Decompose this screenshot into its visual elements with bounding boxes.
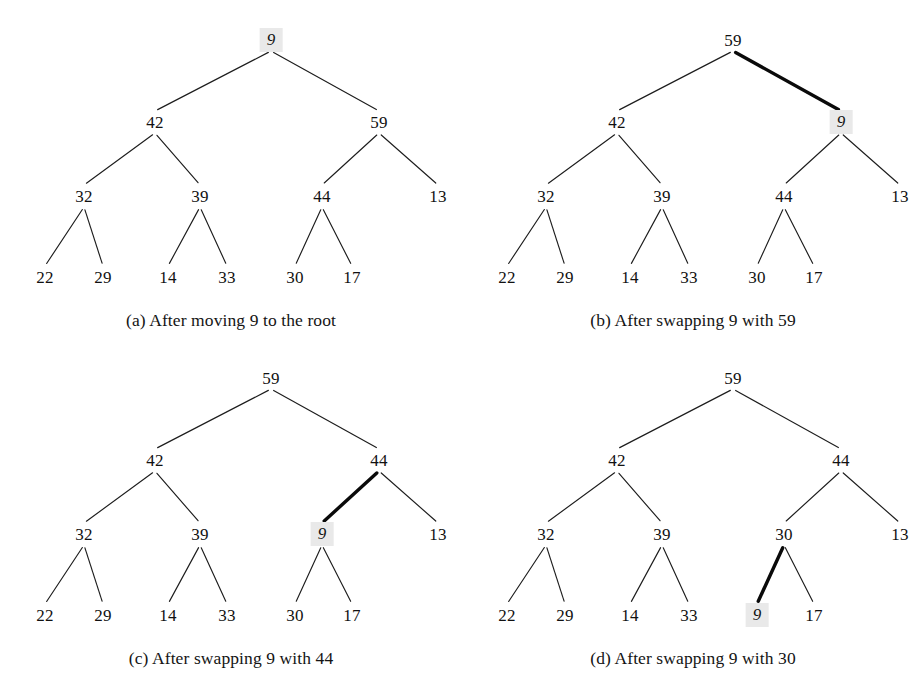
binary-heap-figure: 9425932394413222914333017(a) After movin… (0, 0, 924, 676)
tree-edge (296, 210, 321, 264)
tree-node: 13 (891, 188, 908, 205)
tree-edge (324, 135, 377, 183)
tree-edge (86, 135, 152, 183)
tree-edge (47, 548, 83, 602)
tree-node: 22 (498, 269, 515, 286)
tree-edge (169, 548, 198, 602)
tree-node: 22 (36, 269, 53, 286)
tree-edge (274, 390, 377, 447)
tree-node-highlighted: 9 (830, 110, 853, 134)
tree-edge (843, 473, 898, 521)
tree-edge (758, 210, 783, 264)
tree-node: 17 (343, 607, 360, 624)
tree-edge (323, 548, 350, 602)
tree-edge (157, 473, 198, 520)
tree-panel-b: 5942932394413222914333017(b) After swapp… (462, 0, 924, 338)
panel-caption-c: (c) After swapping 9 with 44 (0, 648, 462, 669)
tree-edge (381, 473, 436, 521)
tree-edge (548, 135, 614, 183)
tree-node: 42 (608, 114, 625, 131)
tree-node: 33 (680, 269, 697, 286)
tree-node: 14 (159, 607, 176, 624)
tree-edge (509, 210, 545, 264)
tree-edge-highlighted (758, 548, 783, 602)
tree-edge (296, 548, 321, 602)
tree-node: 44 (775, 188, 792, 205)
tree-node: 59 (370, 114, 387, 131)
tree-edge (169, 210, 198, 264)
tree-edge (85, 210, 102, 263)
tree-edge (631, 548, 660, 602)
tree-edge (158, 390, 269, 447)
tree-edge (547, 210, 564, 263)
tree-node: 32 (537, 526, 554, 543)
tree-node: 33 (680, 607, 697, 624)
panel-caption-b: (b) After swapping 9 with 59 (462, 310, 924, 331)
tree-node: 22 (36, 607, 53, 624)
tree-edge (323, 210, 350, 264)
panel-caption-a: (a) After moving 9 to the root (0, 310, 462, 331)
tree-node: 29 (556, 269, 573, 286)
tree-edge (786, 135, 839, 183)
tree-node: 42 (608, 452, 625, 469)
tree-edge (786, 473, 839, 521)
tree-node: 30 (286, 607, 303, 624)
tree-edge (663, 548, 688, 602)
tree-node: 14 (621, 269, 638, 286)
tree-node: 13 (891, 526, 908, 543)
tree-node: 14 (159, 269, 176, 286)
tree-node: 44 (832, 452, 849, 469)
tree-node: 17 (343, 269, 360, 286)
tree-edge (736, 390, 839, 447)
tree-panel-a: 9425932394413222914333017(a) After movin… (0, 0, 462, 338)
tree-edge (663, 210, 688, 264)
tree-edge (843, 135, 898, 183)
tree-edge (85, 548, 102, 601)
tree-edge (548, 473, 614, 521)
tree-edge (619, 473, 660, 520)
tree-edge (158, 52, 269, 109)
tree-edge (785, 210, 812, 264)
tree-edge (86, 473, 152, 521)
tree-node: 14 (621, 607, 638, 624)
tree-node: 39 (653, 188, 670, 205)
tree-node-highlighted: 9 (746, 603, 769, 627)
tree-node: 22 (498, 607, 515, 624)
tree-node: 30 (775, 526, 792, 543)
tree-node: 29 (556, 607, 573, 624)
tree-edge-highlighted (324, 473, 377, 521)
tree-panel-c: 5942443239913222914333017(c) After swapp… (0, 338, 462, 676)
panel-caption-d: (d) After swapping 9 with 30 (462, 648, 924, 669)
tree-node: 42 (146, 452, 163, 469)
tree-edge (274, 52, 377, 109)
tree-edge (47, 210, 83, 264)
tree-node: 39 (653, 526, 670, 543)
tree-edge (620, 52, 731, 109)
tree-node: 13 (429, 526, 446, 543)
tree-node-highlighted: 9 (260, 28, 283, 52)
tree-node: 32 (75, 188, 92, 205)
tree-node: 33 (218, 269, 235, 286)
tree-edge-highlighted (736, 52, 839, 109)
tree-node: 39 (191, 526, 208, 543)
tree-edge (381, 135, 436, 183)
tree-node: 32 (537, 188, 554, 205)
tree-node: 30 (286, 269, 303, 286)
tree-panel-d: 5942443239301322291433917(d) After swapp… (462, 338, 924, 676)
tree-edge (620, 390, 731, 447)
tree-node: 17 (805, 269, 822, 286)
tree-edges-a (0, 0, 462, 338)
tree-edge (201, 210, 226, 264)
tree-edges-b (462, 0, 924, 338)
tree-node: 30 (748, 269, 765, 286)
tree-node: 59 (262, 370, 279, 387)
tree-node: 13 (429, 188, 446, 205)
tree-edge (785, 548, 812, 602)
tree-node: 59 (724, 370, 741, 387)
tree-edge (631, 210, 660, 264)
tree-node: 33 (218, 607, 235, 624)
tree-node: 32 (75, 526, 92, 543)
tree-edge (509, 548, 545, 602)
tree-edges-d (462, 338, 924, 676)
tree-edge (619, 135, 660, 182)
